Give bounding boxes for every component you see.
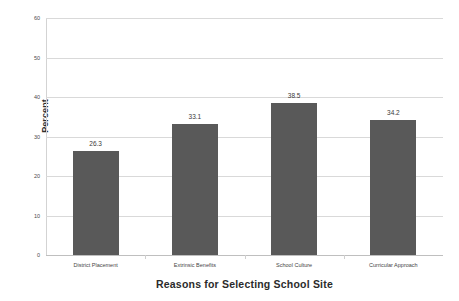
x-axis-tick bbox=[245, 255, 246, 259]
y-tick-label: 60 bbox=[18, 15, 40, 21]
category-label: School Culture bbox=[244, 262, 344, 268]
bar bbox=[73, 151, 119, 255]
bar-value-label: 26.3 bbox=[66, 140, 126, 147]
bar-value-label: 34.2 bbox=[363, 109, 423, 116]
bar bbox=[370, 120, 416, 255]
y-tick-label: 10 bbox=[18, 213, 40, 219]
x-axis-title: Reasons for Selecting School Site bbox=[46, 278, 443, 290]
category-label: Curricular Approach bbox=[343, 262, 443, 268]
y-tick-label: 0 bbox=[18, 252, 40, 258]
bar bbox=[172, 124, 218, 255]
y-tick-label: 40 bbox=[18, 94, 40, 100]
bar-value-label: 38.5 bbox=[264, 92, 324, 99]
category-label: District Placement bbox=[46, 262, 146, 268]
y-tick-label: 30 bbox=[18, 134, 40, 140]
gridline bbox=[46, 97, 443, 98]
bar-chart: Percent Reasons for Selecting School Sit… bbox=[0, 0, 459, 301]
gridline bbox=[46, 18, 443, 19]
y-tick-label: 50 bbox=[18, 55, 40, 61]
category-label: Extrinsic Benefits bbox=[145, 262, 245, 268]
bar bbox=[271, 103, 317, 255]
y-tick-label: 20 bbox=[18, 173, 40, 179]
x-axis-tick bbox=[145, 255, 146, 259]
bar-value-label: 33.1 bbox=[165, 113, 225, 120]
x-axis-tick bbox=[344, 255, 345, 259]
gridline bbox=[46, 58, 443, 59]
plot-area bbox=[46, 18, 443, 255]
